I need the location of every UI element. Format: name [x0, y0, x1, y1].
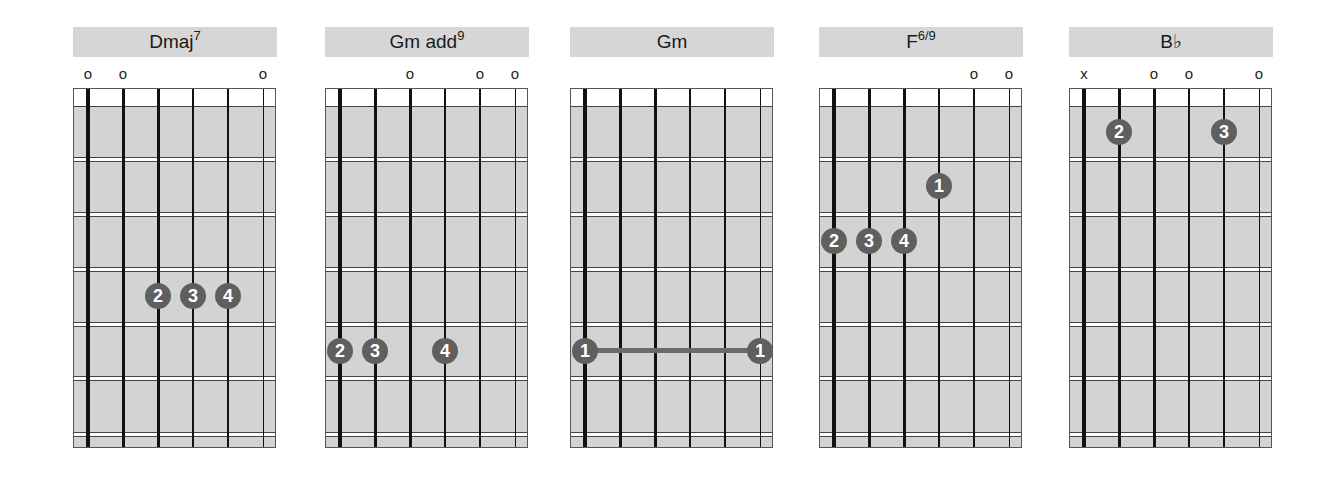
- nut: [571, 89, 772, 107]
- guitar-string: [583, 89, 587, 447]
- fret-line: [820, 376, 1021, 381]
- fretboard: 11: [570, 88, 773, 448]
- finger-dot: 3: [180, 283, 206, 309]
- finger-dot: 1: [747, 338, 773, 364]
- guitar-string: [1188, 89, 1190, 447]
- guitar-string: [409, 89, 412, 447]
- guitar-string: [1153, 89, 1156, 447]
- fret-line: [1070, 376, 1271, 381]
- fret-line: [326, 157, 527, 162]
- chord-diagram: Dmaj7ooo234: [73, 0, 277, 480]
- chord-title: Gm add9: [325, 27, 529, 57]
- finger-dot: 2: [1106, 119, 1132, 145]
- open-string-marker: o: [403, 64, 417, 84]
- string-markers: xooo: [1069, 64, 1273, 84]
- fret-line: [326, 267, 527, 272]
- guitar-string: [619, 89, 622, 447]
- guitar-string: [938, 89, 940, 447]
- fretboard: 234: [73, 88, 276, 448]
- fret-line: [1070, 267, 1271, 272]
- open-string-marker: o: [473, 64, 487, 84]
- string-markers: [570, 64, 774, 84]
- string-markers: ooo: [325, 64, 529, 84]
- chord-diagram: B♭xooo23: [1069, 0, 1273, 480]
- guitar-string: [724, 89, 726, 447]
- chord-name: Gm add: [390, 31, 458, 52]
- fret-line: [820, 157, 1021, 162]
- fretboard: 234: [325, 88, 528, 448]
- finger-dot: 2: [145, 283, 171, 309]
- fret-line: [571, 157, 772, 162]
- fret-line: [326, 432, 527, 437]
- open-string-marker: o: [116, 64, 130, 84]
- nut: [820, 89, 1021, 107]
- fret-line: [74, 157, 275, 162]
- nut: [1070, 89, 1271, 107]
- fret-line: [326, 322, 527, 327]
- fret-line: [1070, 212, 1271, 217]
- guitar-string: [654, 89, 657, 447]
- finger-dot: 2: [327, 338, 353, 364]
- chord-name: B♭: [1160, 31, 1182, 52]
- guitar-string: [479, 89, 481, 447]
- open-string-marker: o: [81, 64, 95, 84]
- finger-dot: 3: [362, 338, 388, 364]
- fret-line: [74, 267, 275, 272]
- guitar-string: [374, 89, 377, 447]
- guitar-string: [832, 89, 836, 447]
- finger-dot: 1: [926, 173, 952, 199]
- fret-line: [820, 212, 1021, 217]
- chord-diagram: F6/9oo1234: [819, 0, 1023, 480]
- chord-title: F6/9: [819, 27, 1023, 57]
- guitar-string: [157, 89, 160, 447]
- fret-line: [74, 432, 275, 437]
- fret-line: [74, 322, 275, 327]
- chord-extension: 7: [194, 28, 201, 43]
- fret-line: [74, 212, 275, 217]
- finger-dot: 4: [432, 338, 458, 364]
- fret-line: [1070, 432, 1271, 437]
- guitar-string: [444, 89, 446, 447]
- fret-line: [571, 376, 772, 381]
- open-string-marker: o: [1147, 64, 1161, 84]
- guitar-string: [1259, 89, 1260, 447]
- guitar-string: [86, 89, 90, 447]
- open-string-marker: o: [1002, 64, 1016, 84]
- guitar-string: [1009, 89, 1010, 447]
- open-string-marker: o: [256, 64, 270, 84]
- fret-line: [571, 212, 772, 217]
- guitar-string: [515, 89, 516, 447]
- nut: [74, 89, 275, 107]
- fretboard: 1234: [819, 88, 1022, 448]
- barre-line: [585, 348, 760, 353]
- fret-line: [571, 432, 772, 437]
- guitar-string: [122, 89, 125, 447]
- chord-title: Gm: [570, 27, 774, 57]
- finger-dot: 2: [821, 228, 847, 254]
- string-markers: ooo: [73, 64, 277, 84]
- chord-extension: 9: [457, 28, 464, 43]
- open-string-marker: o: [1182, 64, 1196, 84]
- fret-line: [820, 432, 1021, 437]
- guitar-string: [868, 89, 871, 447]
- open-string-marker: o: [508, 64, 522, 84]
- finger-dot: 1: [572, 338, 598, 364]
- guitar-string: [973, 89, 975, 447]
- open-string-marker: o: [1252, 64, 1266, 84]
- fret-line: [1070, 322, 1271, 327]
- fret-line: [326, 376, 527, 381]
- chord-title: Dmaj7: [73, 27, 277, 57]
- finger-dot: 3: [856, 228, 882, 254]
- nut: [326, 89, 527, 107]
- chord-diagram: Gm11: [570, 0, 774, 480]
- chord-name: Gm: [657, 31, 688, 52]
- guitar-string: [1082, 89, 1086, 447]
- fret-line: [571, 322, 772, 327]
- finger-dot: 3: [1211, 119, 1237, 145]
- fret-line: [326, 212, 527, 217]
- chord-diagram: Gm add9ooo234: [325, 0, 529, 480]
- chord-extension: 6/9: [918, 28, 936, 43]
- guitar-string: [760, 89, 761, 447]
- chord-title: B♭: [1069, 27, 1273, 57]
- guitar-string: [227, 89, 229, 447]
